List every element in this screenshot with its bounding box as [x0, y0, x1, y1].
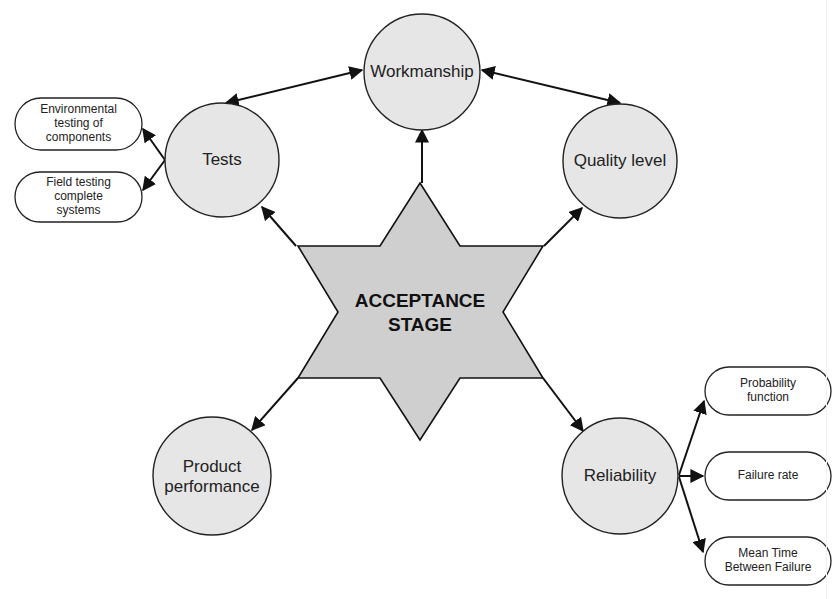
- failure-rate-label: Failure rate: [705, 452, 831, 500]
- field-line1: Field testing: [46, 176, 111, 190]
- arrow-star-to-product-performance: [252, 378, 298, 430]
- tests-label: Tests: [170, 146, 274, 174]
- arrow-tests-to-environmental: [143, 129, 165, 160]
- environmental-line2: testing of: [54, 117, 103, 131]
- probability-line1: Probability: [740, 377, 796, 391]
- environmental-testing-label: Environmental testing of components: [15, 98, 142, 150]
- environmental-line3: components: [46, 131, 111, 145]
- mtbf-label: Mean Time Between Failure: [705, 537, 831, 585]
- arrow-star-to-tests: [262, 207, 296, 246]
- page-edge-divider: [826, 0, 827, 599]
- arrow-reliability-to-probability: [679, 401, 704, 475]
- arrow-star-to-quality: [544, 208, 582, 246]
- field-line3: systems: [56, 204, 100, 218]
- product-performance-label: Product performance: [152, 455, 272, 499]
- center-label: ACCEPTANCE STAGE: [330, 282, 510, 344]
- arrow-reliability-to-mtbf: [679, 477, 703, 552]
- mtbf-line1: Mean Time: [738, 547, 797, 561]
- quality-level-label: Quality level: [565, 147, 675, 175]
- probability-function-label: Probability function: [705, 367, 831, 415]
- reliability-label: Reliability: [565, 462, 675, 490]
- arrow-star-to-reliability: [543, 378, 583, 431]
- workmanship-label: Workmanship: [362, 58, 482, 86]
- arrow-tests-to-field: [143, 160, 165, 190]
- mtbf-line2: Between Failure: [725, 561, 812, 575]
- field-line2: complete: [54, 190, 103, 204]
- product-performance-line2: performance: [164, 477, 259, 497]
- product-performance-line1: Product: [183, 457, 242, 477]
- probability-line2: function: [747, 391, 789, 405]
- arrow-tests-workmanship: [226, 70, 362, 103]
- center-label-line2: STAGE: [388, 313, 452, 337]
- center-label-line1: ACCEPTANCE: [355, 289, 486, 313]
- field-testing-label: Field testing complete systems: [15, 172, 142, 222]
- arrow-workmanship-quality: [482, 70, 620, 103]
- environmental-line1: Environmental: [40, 103, 117, 117]
